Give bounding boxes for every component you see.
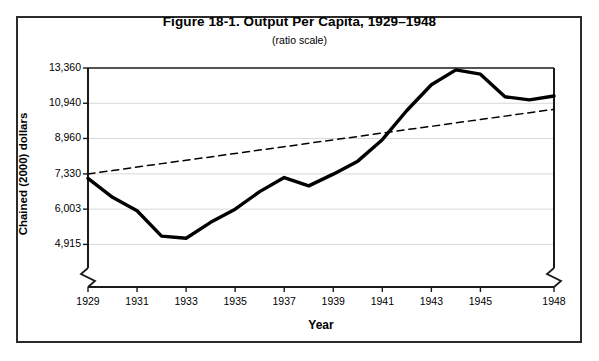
y-tick-label: 4,915 <box>25 237 81 249</box>
x-tick-label: 1929 <box>66 295 110 307</box>
axis-break-marks <box>81 268 561 287</box>
y-tick-label: 8,960 <box>25 131 81 143</box>
y-tick-label: 10,940 <box>25 96 81 108</box>
gridlines <box>88 103 554 244</box>
data-series <box>88 70 554 238</box>
x-tick-label: 1931 <box>115 295 159 307</box>
trend-line <box>88 109 554 174</box>
x-tick-label: 1948 <box>532 295 576 307</box>
y-tick-label: 7,330 <box>25 167 81 179</box>
x-tick-label: 1945 <box>458 295 502 307</box>
x-tick-label: 1937 <box>262 295 306 307</box>
x-tick-label: 1943 <box>409 295 453 307</box>
y-tick-label: 6,003 <box>25 202 81 214</box>
x-tick-label: 1941 <box>360 295 404 307</box>
x-tick-label: 1935 <box>213 295 257 307</box>
x-tick-label: 1933 <box>164 295 208 307</box>
y-tick-label: 13,360 <box>25 61 81 73</box>
output-line <box>88 70 554 238</box>
plot-frame <box>88 68 554 287</box>
x-tick-label: 1939 <box>311 295 355 307</box>
